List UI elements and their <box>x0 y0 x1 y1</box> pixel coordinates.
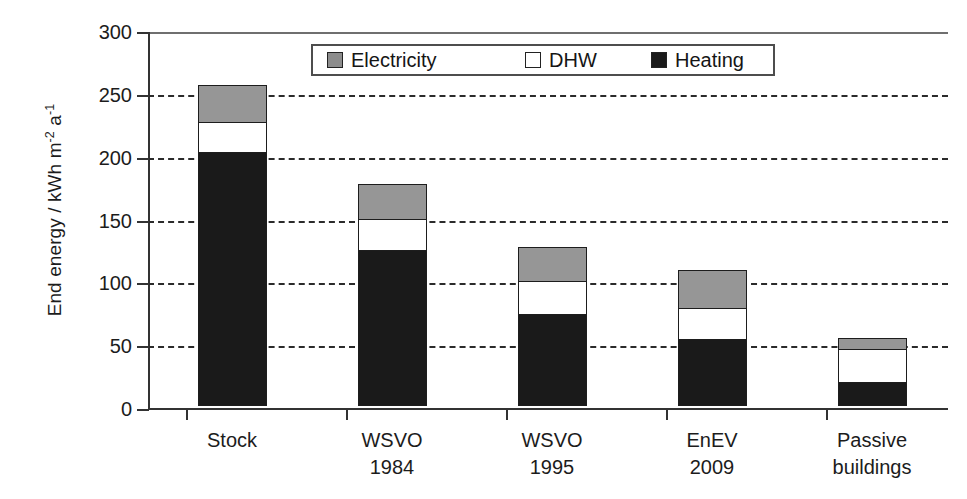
chart-figure: End energy / kWh m-2 a-1 050100150200250… <box>0 0 967 499</box>
bar-segment-dhw <box>198 122 267 153</box>
legend-swatch-heating-icon <box>651 52 667 68</box>
x-tick-label: Stock <box>207 427 257 454</box>
stacked-bar <box>518 247 587 408</box>
stacked-bar <box>358 184 427 408</box>
stacked-bar <box>838 338 907 408</box>
bar-segment-heating <box>838 382 907 406</box>
bar-segment-electricity <box>358 184 427 219</box>
bar-segment-dhw <box>358 219 427 252</box>
y-tick-label: 300 <box>99 21 132 44</box>
y-axis-title-exponent-2: -1 <box>43 104 57 115</box>
legend-swatch-dhw-icon <box>525 52 541 68</box>
x-tick-mark <box>826 409 828 420</box>
y-tick-mark <box>137 95 149 97</box>
stacked-bar <box>198 85 267 408</box>
legend-label-heating: Heating <box>675 49 744 72</box>
bar-segment-heating <box>358 250 427 406</box>
bar-segment-heating <box>198 152 267 406</box>
plot-top-rule <box>148 32 948 34</box>
y-tick-mark <box>137 32 149 34</box>
bar-segment-dhw <box>838 349 907 383</box>
bar-segment-electricity <box>678 270 747 309</box>
y-tick-label: 50 <box>110 335 132 358</box>
legend-item-heating[interactable]: Heating <box>651 49 744 72</box>
y-tick-label: 200 <box>99 146 132 169</box>
x-tick-label: EnEV 2009 <box>686 427 737 480</box>
chart-legend: Electricity DHW Heating <box>311 44 775 76</box>
legend-label-electricity: Electricity <box>351 49 437 72</box>
x-tick-mark <box>506 409 508 420</box>
x-tick-mark <box>666 409 668 420</box>
legend-item-dhw[interactable]: DHW <box>525 49 597 72</box>
legend-swatch-electricity-icon <box>327 52 343 68</box>
bar-segment-dhw <box>678 308 747 341</box>
x-tick-mark <box>186 409 188 420</box>
x-axis-line <box>148 408 948 410</box>
y-tick-mark <box>137 221 149 223</box>
y-axis-title: End energy / kWh m-2 a-1 <box>38 0 72 420</box>
y-axis-title-text: End energy / kWh m-2 a-1 <box>44 104 66 317</box>
bar-segment-heating <box>518 314 587 406</box>
gridline <box>148 221 948 223</box>
gridline <box>148 158 948 160</box>
x-tick-label: WSVO 1984 <box>361 427 422 480</box>
x-tick-label: WSVO 1995 <box>521 427 582 480</box>
x-tick-label: Passive buildings <box>833 427 912 480</box>
y-tick-mark <box>137 283 149 285</box>
bar-segment-heating <box>678 339 747 406</box>
y-axis-title-exponent-1: -2 <box>43 131 57 142</box>
legend-label-dhw: DHW <box>549 49 597 72</box>
legend-item-electricity[interactable]: Electricity <box>327 49 437 72</box>
bar-segment-dhw <box>518 281 587 315</box>
y-tick-mark <box>137 409 149 411</box>
stacked-bar <box>678 270 747 408</box>
y-tick-label: 100 <box>99 272 132 295</box>
y-tick-label: 250 <box>99 83 132 106</box>
plot-area: 050100150200250300 <box>148 32 948 409</box>
y-tick-label: 150 <box>99 209 132 232</box>
y-tick-label: 0 <box>121 398 132 421</box>
bar-segment-electricity <box>198 85 267 123</box>
y-tick-mark <box>137 158 149 160</box>
x-tick-mark <box>346 409 348 420</box>
y-tick-mark <box>137 346 149 348</box>
gridline <box>148 95 948 97</box>
bar-segment-electricity <box>518 247 587 282</box>
